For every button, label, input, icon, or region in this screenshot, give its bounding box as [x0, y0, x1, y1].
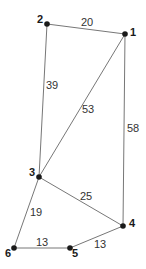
node-3-dot [36, 174, 42, 180]
edge-weight-label: 13 [36, 236, 48, 248]
node-label: 4 [129, 217, 136, 229]
edge-weight-label: 19 [30, 206, 42, 218]
node-label: 2 [37, 13, 43, 25]
edge-weight-label: 58 [127, 122, 139, 134]
edge-1-4 [123, 34, 125, 226]
node-6-dot [11, 245, 17, 251]
edge-weight-label: 20 [81, 16, 93, 28]
weighted-graph-diagram: 2039535825191313 123456 [0, 0, 146, 269]
node-2-dot [44, 21, 50, 27]
edge-weight-label: 25 [80, 190, 92, 202]
edge-2-3 [39, 24, 47, 177]
edge-weight-label: 39 [46, 79, 58, 91]
node-label: 3 [29, 166, 35, 178]
edge-weight-label: 13 [94, 238, 106, 250]
node-4-dot [120, 223, 126, 229]
node-1-dot [122, 31, 128, 37]
nodes-layer [11, 21, 128, 251]
node-label: 5 [72, 247, 78, 259]
node-label: 6 [5, 247, 11, 259]
edge-weight-label: 53 [82, 103, 94, 115]
node-label: 1 [130, 26, 136, 38]
